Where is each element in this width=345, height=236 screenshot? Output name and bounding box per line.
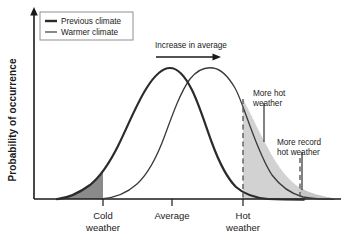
legend-label-previous-climate: Previous climate — [61, 17, 122, 26]
y-axis-arrow-icon — [30, 7, 38, 16]
x-axis-label-cold-line2: weather — [85, 222, 120, 233]
x-axis-label-hot-line1: Hot — [236, 210, 251, 221]
legend-label-warmer-climate: Warmer climate — [61, 28, 118, 37]
annotation-more-record-hot-weather-line2: hot weather — [277, 148, 320, 157]
curve-warmer-climate — [101, 68, 334, 200]
annotation-increase-in-average: Increase in average — [155, 41, 227, 50]
x-axis-label-cold-line1: Cold — [93, 210, 113, 221]
annotation-more-record-hot-weather-line1: More record — [277, 138, 322, 147]
x-axis-label-average: Average — [154, 210, 189, 221]
y-axis-label: Probability of occurrence — [7, 58, 18, 181]
x-axis-label-hot-line2: weather — [225, 222, 260, 233]
shaded-region-cold-tail — [60, 172, 103, 199]
climate-distribution-figure: Previous climate Warmer climate Increase… — [0, 0, 345, 236]
chart-canvas: Previous climate Warmer climate Increase… — [0, 0, 345, 236]
increase-in-average-arrow-head-icon — [213, 53, 222, 60]
annotation-more-hot-weather-line2: weather — [252, 99, 282, 108]
annotation-more-hot-weather-line1: More hot — [253, 89, 286, 98]
